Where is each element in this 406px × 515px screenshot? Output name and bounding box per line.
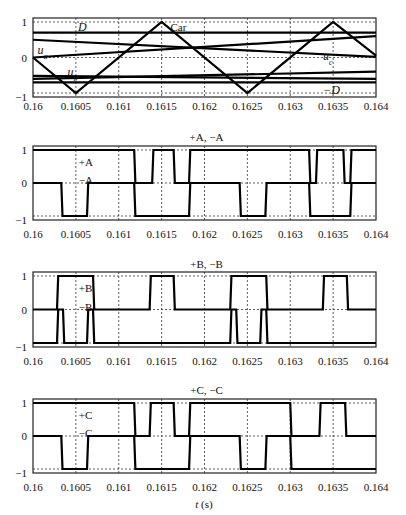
annotation-label: −C: [79, 427, 93, 439]
annotation-label: Car: [170, 21, 186, 33]
x-tick-label: 0.162: [192, 228, 217, 240]
x-tick-label: 0.162: [192, 100, 217, 112]
x-tick-label: 0.1615: [147, 355, 178, 367]
x-tick-label: 0.163: [278, 100, 303, 112]
x-tick-label: 0.161: [106, 481, 131, 493]
x-tick-label: 0.164: [364, 100, 389, 112]
annotation-label: −B: [79, 301, 93, 313]
x-tick-label: 0.161: [106, 228, 131, 240]
x-axis-label-unit: (s): [198, 498, 213, 511]
x-tick-label: 0.1635: [318, 228, 349, 240]
x-tick-label: 0.161: [106, 355, 131, 367]
y-tick-label: −1: [15, 91, 27, 103]
x-tick-label: 0.164: [364, 355, 389, 367]
x-tick-label: 0.1605: [61, 355, 92, 367]
panel-2: +A, −A0.160.16050.1610.16150.1620.16250.…: [15, 131, 389, 240]
panel-title: +B, −B: [190, 258, 223, 270]
x-tick-label: 0.1605: [61, 481, 92, 493]
annotation-subscript: c: [329, 57, 333, 66]
panel-4: +C, −C0.160.16050.1610.16150.1620.16250.…: [15, 384, 389, 493]
panel-3: +B, −B0.160.16050.1610.16150.1620.16250.…: [15, 258, 389, 367]
x-tick-label: 0.164: [364, 481, 389, 493]
x-tick-label: 0.1625: [232, 481, 263, 493]
y-tick-label: 0: [22, 304, 28, 316]
x-tick-label: 0.162: [192, 355, 217, 367]
x-tick-label: 0.163: [278, 228, 303, 240]
panel-title: +A, −A: [190, 131, 224, 143]
annotation-subscript: b: [74, 74, 78, 83]
x-tick-label: 0.1615: [147, 100, 178, 112]
panel-title: +C, −C: [190, 384, 223, 396]
chart-figure: 0.160.16050.1610.16150.1620.16250.1630.1…: [0, 0, 406, 515]
x-tick-label: 0.1635: [318, 481, 349, 493]
y-tick-label: 1: [22, 270, 28, 282]
x-tick-label: 0.1635: [318, 100, 349, 112]
x-tick-label: 0.162: [192, 481, 217, 493]
x-tick-label: 0.16: [23, 481, 43, 493]
y-tick-label: 0: [22, 52, 28, 64]
panel-1: 0.160.16050.1610.16150.1620.16250.1630.1…: [15, 16, 389, 112]
x-tick-label: 0.1615: [147, 228, 178, 240]
x-tick-label: 0.1625: [232, 355, 263, 367]
y-tick-label: 1: [22, 144, 28, 156]
x-tick-label: 0.164: [364, 228, 389, 240]
y-tick-label: −1: [15, 467, 27, 479]
y-tick-label: −1: [15, 341, 27, 353]
x-tick-label: 0.161: [106, 100, 131, 112]
x-tick-label: 0.1605: [61, 228, 92, 240]
x-tick-label: 0.16: [23, 228, 43, 240]
x-tick-label: 0.1615: [147, 481, 178, 493]
y-tick-label: −1: [15, 214, 27, 226]
annotation-label: +A: [79, 156, 93, 168]
x-tick-label: 0.1625: [232, 228, 263, 240]
annotation-label: ub: [68, 65, 78, 83]
annotation-label: +C: [79, 409, 93, 421]
annotation-label: D: [77, 20, 87, 34]
annotation-subscript: a: [44, 51, 48, 60]
x-tick-label: 0.163: [278, 355, 303, 367]
x-tick-label: 0.1605: [61, 100, 92, 112]
annotation-label: −D: [323, 83, 340, 97]
y-tick-label: 0: [22, 430, 28, 442]
x-tick-label: 0.1625: [232, 100, 263, 112]
x-tick-label: 0.1635: [318, 355, 349, 367]
x-tick-label: 0.163: [278, 481, 303, 493]
y-tick-label: 0: [22, 177, 28, 189]
annotation-label: +B: [79, 282, 93, 294]
x-tick-label: 0.16: [23, 355, 43, 367]
y-tick-label: 1: [22, 397, 28, 409]
annotation-label: −A: [79, 174, 93, 186]
annotation-label: uc: [323, 49, 333, 67]
x-axis-label: t (s): [195, 498, 213, 511]
y-tick-label: 1: [22, 16, 28, 28]
